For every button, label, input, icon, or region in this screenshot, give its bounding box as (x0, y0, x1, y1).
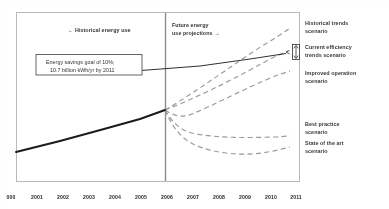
scenario-label-line2: scenario (305, 28, 328, 34)
historical-arrow-label: ← Historical energy use (68, 27, 131, 33)
x-tick-label: 2007 (187, 194, 199, 200)
callout-energy-savings-goal: Energy savings goal of 10%; 10.7 billion… (36, 55, 142, 76)
scenario-label-line2: scenario (305, 78, 328, 84)
chart-canvas: ← Historical energy use Future energy us… (0, 0, 389, 209)
callout-line-2: 10.7 billion kWh/yr by 2011 (50, 67, 115, 73)
x-tick-label: 2011 (290, 194, 302, 200)
scenario-label-line1: State of the art (305, 140, 344, 146)
energy-scenarios-chart: ← Historical energy use Future energy us… (0, 0, 389, 209)
x-tick-label: 2006 (161, 194, 173, 200)
scenario-label-line1: Current efficiency (305, 44, 352, 50)
x-tick-label: 000 (7, 194, 16, 200)
x-tick-label: 2010 (265, 194, 277, 200)
x-tick-label: 2009 (239, 194, 251, 200)
x-tick-label: 2001 (31, 194, 43, 200)
future-projection-label-line2: use projections → (172, 30, 220, 36)
scenario-label-current-efficiency: Current efficiency trends scenario (305, 44, 352, 58)
x-tick-label: 2005 (135, 194, 147, 200)
scenario-label-line1: Best practice (305, 121, 340, 127)
x-tick-label: 2008 (213, 194, 225, 200)
x-tick-label: 2003 (83, 194, 95, 200)
annotation-historical: ← Historical energy use (68, 27, 131, 33)
callout-line-1: Energy savings goal of 10%; (46, 59, 114, 65)
scenario-label-line2: trends scenario (305, 52, 347, 58)
scenario-label-line1: Improved operation (305, 70, 356, 76)
x-tick-label: 2004 (109, 194, 121, 200)
x-tick-label: 2002 (57, 194, 69, 200)
scenario-label-line1: Historical trends (305, 20, 348, 26)
scenario-label-line2: scenario (305, 148, 328, 154)
scenario-label-line2: scenario (305, 129, 328, 135)
future-projection-label-line1: Future energy (172, 22, 209, 28)
